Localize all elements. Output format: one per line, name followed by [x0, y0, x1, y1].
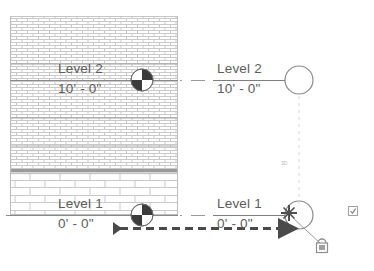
- level-2-head-name-label[interactable]: Level 2: [217, 62, 262, 76]
- level-1-wall-name-label[interactable]: Level 1: [58, 197, 103, 211]
- drawing-layer: [0, 0, 374, 271]
- level-1-wall-elevation-label[interactable]: 0' - 0": [58, 217, 94, 231]
- level-2-wall-elevation-label[interactable]: 10' - 0": [58, 82, 102, 96]
- constraint-padlock-icon[interactable]: [317, 239, 328, 253]
- level-1-head-name-label[interactable]: Level 1: [217, 197, 262, 211]
- level-1-head-elevation-label[interactable]: 0' - 0": [217, 217, 253, 231]
- wall-section[interactable]: [10, 16, 178, 215]
- toggle-checkbox-marker-icon[interactable]: [349, 207, 358, 216]
- level-1-pinwheel-grip-icon[interactable]: [131, 204, 153, 226]
- level-2-head-elevation-label[interactable]: 10' - 0": [217, 82, 261, 96]
- revit-section-view-canvas[interactable]: Level 2 10' - 0" Level 2 10' - 0" Level …: [0, 0, 374, 271]
- level-2-pinwheel-grip-icon[interactable]: [131, 69, 153, 91]
- dimension-value-label: 3D: [281, 161, 287, 166]
- level-2-head-bubble[interactable]: [285, 66, 313, 94]
- wall-slab-band: [10, 169, 178, 172]
- level-2-wall-name-label[interactable]: Level 2: [58, 62, 103, 76]
- small-solid-pointer-icon: [113, 222, 122, 235]
